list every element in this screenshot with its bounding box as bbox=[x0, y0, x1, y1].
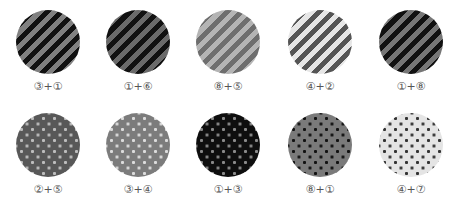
striped-circle-icon bbox=[106, 10, 170, 74]
striped-circle-icon bbox=[379, 10, 443, 74]
swatch-label: ④+② bbox=[275, 80, 365, 93]
striped-circle-icon bbox=[288, 10, 352, 74]
dot-swatch: ①+③ bbox=[183, 113, 273, 196]
swatch-label: ④+⑦ bbox=[366, 183, 454, 196]
swatch-label: ⑧+⑤ bbox=[183, 80, 273, 93]
swatch-label: ①+③ bbox=[183, 183, 273, 196]
stripe-swatch: ③+① bbox=[3, 10, 93, 93]
swatch-label: ⑧+① bbox=[275, 183, 365, 196]
stripe-swatch: ①+⑥ bbox=[93, 10, 183, 93]
dot-swatch: ③+④ bbox=[93, 113, 183, 196]
dotted-circle-icon bbox=[196, 113, 260, 177]
dot-swatch: ②+⑤ bbox=[3, 113, 93, 196]
stripe-swatch: ⑧+⑤ bbox=[183, 10, 273, 93]
dotted-circle-icon bbox=[106, 113, 170, 177]
dotted-circle-icon bbox=[288, 113, 352, 177]
dotted-circle-icon bbox=[16, 113, 80, 177]
dot-swatch: ⑧+① bbox=[275, 113, 365, 196]
swatch-label: ②+⑤ bbox=[3, 183, 93, 196]
dot-swatch: ④+⑦ bbox=[366, 113, 454, 196]
dotted-circle-icon bbox=[379, 113, 443, 177]
striped-circle-icon bbox=[196, 10, 260, 74]
swatch-label: ③+① bbox=[3, 80, 93, 93]
stripe-swatch: ④+② bbox=[275, 10, 365, 93]
swatch-label: ①+⑥ bbox=[93, 80, 183, 93]
swatch-label: ③+④ bbox=[93, 183, 183, 196]
swatch-label: ①+⑧ bbox=[366, 80, 454, 93]
stripe-swatch: ①+⑧ bbox=[366, 10, 454, 93]
striped-circle-icon bbox=[16, 10, 80, 74]
